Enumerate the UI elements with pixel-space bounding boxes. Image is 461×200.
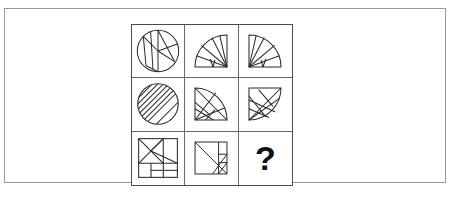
puzzle-grid: ? [131,24,293,186]
diagonal-square-figure-icon [192,139,230,177]
quarter-disc-chords-figure-icon [191,84,231,124]
puzzle-cell-row2-col1[interactable] [132,78,185,131]
puzzle-cell-row1-col1[interactable] [132,25,185,78]
quarter-disc-fan-mirrored-figure-icon [245,31,285,71]
tangram-square-figure-icon [136,136,180,180]
quarter-disc-fan-figure-icon [191,31,231,71]
puzzle-cell-row3-col2[interactable] [185,132,238,185]
puzzle-cell-row1-col3[interactable] [239,25,292,78]
question-mark-label: ? [255,141,276,175]
puzzle-cell-row2-col3[interactable] [239,78,292,131]
circle-wedge-figure-icon [135,28,181,74]
puzzle-cell-row3-col1[interactable] [132,132,185,185]
puzzle-cell-row1-col2[interactable] [185,25,238,78]
puzzle-cell-row3-col3-answer[interactable]: ? [239,132,292,185]
quarter-disc-chords-mirrored-figure-icon [245,84,285,124]
screenshot-canvas: ? [0,0,461,200]
puzzle-cell-row2-col2[interactable] [185,78,238,131]
hatched-circle-figure-icon [135,81,181,127]
outer-frame: ? [4,8,446,183]
